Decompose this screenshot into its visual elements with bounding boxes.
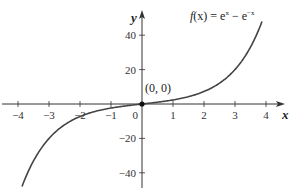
y-axis-label: y (129, 10, 137, 25)
function-graph: −4−3−2−112340−40−202040xy(0, 0) f(x) = e… (0, 0, 298, 191)
origin-point (139, 101, 144, 106)
x-tick-label: −4 (12, 109, 24, 121)
y-tick-label: 40 (125, 29, 137, 41)
y-tick-label: −40 (119, 167, 137, 179)
y-tick-label: 20 (125, 64, 137, 76)
axes (2, 10, 285, 188)
x-tick-label: 1 (170, 109, 176, 121)
point-annotation: (0, 0) (145, 81, 171, 95)
y-tick-label: −20 (119, 132, 137, 144)
x-tick-label: 2 (201, 109, 207, 121)
x-axis-label: x (281, 107, 289, 122)
x-tick-label: −3 (43, 109, 55, 121)
x-tick-label: −1 (105, 109, 117, 121)
x-tick-label: −2 (74, 109, 86, 121)
chart-title: f(x) = ex − e−x (190, 9, 255, 23)
x-tick-label: 4 (263, 109, 269, 121)
x-tick-label: 3 (232, 109, 238, 121)
origin-label: 0 (133, 109, 139, 121)
